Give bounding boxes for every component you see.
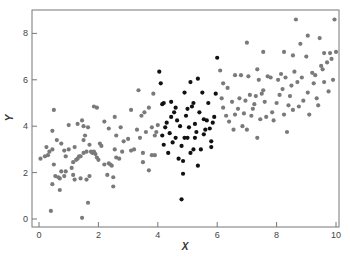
scatter-plot: 0246810 02468 X Y [0,0,350,260]
x-axis-label: X [181,241,190,252]
data-point [142,110,146,114]
data-point [282,113,286,117]
plot-frame [32,10,339,227]
data-point [84,150,88,154]
data-point [169,100,173,104]
data-point [248,93,252,97]
data-point [113,115,117,119]
data-point [318,36,322,40]
data-point [102,119,106,123]
x-tick-label: 0 [36,230,41,240]
data-point [261,50,265,54]
data-point [334,50,338,54]
data-point [62,174,66,178]
data-point [138,136,142,140]
data-point [331,78,335,82]
data-point [264,115,268,119]
data-point [332,17,336,21]
data-point [251,107,255,111]
y-tick-label: 6 [23,75,28,85]
data-point [49,209,53,213]
data-point [329,57,333,61]
data-point [159,81,163,85]
data-point [58,176,62,180]
data-point [243,99,247,103]
data-point [263,100,267,104]
data-point [289,84,293,88]
data-point [315,96,319,100]
data-point [230,100,234,104]
data-point [211,121,215,125]
data-point [312,81,316,85]
data-point [160,133,164,137]
data-point [258,117,262,121]
data-point [209,145,213,149]
data-point [212,115,216,119]
data-point [52,108,56,112]
data-point [67,147,71,151]
x-tick-label: 2 [96,230,101,240]
data-point [239,73,243,77]
data-point [64,154,68,158]
x-tick-label: 4 [155,230,160,240]
data-point [59,169,63,173]
data-point [292,70,296,74]
data-point [218,68,222,72]
data-point [304,55,308,59]
data-point [237,96,241,100]
data-point [193,136,197,140]
x-tick-label: 8 [274,230,279,240]
data-point [191,101,195,105]
data-point [169,115,173,119]
data-point [81,124,85,128]
data-point [70,166,74,170]
data-point [126,137,130,141]
data-point [300,75,304,79]
data-point [141,151,145,155]
data-point [184,114,188,118]
data-point [50,129,54,133]
data-point [225,86,229,90]
data-point [81,138,85,142]
data-point [172,110,176,114]
data-point [193,122,197,126]
data-point [233,73,237,77]
data-points [38,17,338,220]
data-point [87,174,91,178]
data-point [147,168,151,172]
data-point [117,157,121,161]
data-point [176,157,180,161]
data-point [162,101,166,105]
data-point [175,118,179,122]
x-tick-label: 6 [215,230,220,240]
data-point [107,126,111,130]
data-point [283,75,287,79]
data-point [165,121,169,125]
data-point [208,126,212,130]
data-point [202,132,206,136]
x-axis-ticks: 0246810 [36,222,341,240]
data-point [242,111,246,115]
data-point [84,177,88,181]
data-point [99,144,103,148]
data-point [83,133,87,137]
data-point [252,102,256,106]
data-point [301,99,305,103]
data-point [62,148,66,152]
data-point [255,136,259,140]
data-point [174,106,178,110]
data-point [199,147,203,151]
data-point [291,108,295,112]
data-point [316,103,320,107]
data-point [279,72,283,76]
data-point [132,147,136,151]
data-point [50,147,54,151]
data-point [295,80,299,84]
data-point [105,173,109,177]
data-point [294,17,298,21]
data-point [214,92,218,96]
data-point [261,88,265,92]
data-point [58,188,62,192]
data-point [139,114,143,118]
data-point [147,106,151,110]
